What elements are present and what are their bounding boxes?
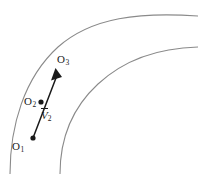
point-label-o3: O3: [57, 54, 69, 65]
velocity-arrow-head: [51, 68, 62, 81]
point-marker-o1: [30, 135, 35, 140]
vector-label-v2: V2: [41, 108, 51, 121]
point-marker-o2: [38, 99, 43, 104]
point-label-o2: O2: [24, 96, 36, 107]
outer-arc: [10, 15, 198, 174]
point-label-o1: O1: [12, 141, 24, 152]
figure-drawing: [0, 0, 198, 174]
velocity-arrow-shaft: [33, 74, 58, 138]
inner-arc: [60, 47, 198, 174]
figure-canvas: O3 O2 O1 V2: [0, 0, 198, 174]
